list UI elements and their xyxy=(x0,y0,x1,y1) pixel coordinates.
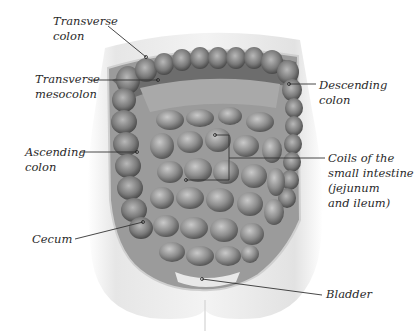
label-cecum: Cecum xyxy=(32,232,72,247)
label-descending-colon: Descending colon xyxy=(319,78,387,108)
label-small-intestine: Coils of the small intestine (jejunum an… xyxy=(328,151,414,211)
label-ascending-colon: Ascending colon xyxy=(25,145,86,175)
label-transverse-colon: Transverse colon xyxy=(53,14,118,44)
label-transverse-mesocolon: Transverse mesocolon xyxy=(35,72,100,102)
label-bladder: Bladder xyxy=(326,287,372,302)
